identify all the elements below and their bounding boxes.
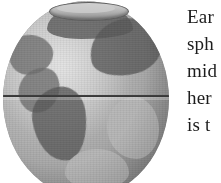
- body-text-line: her: [187, 88, 221, 107]
- body-text-line: mid: [187, 61, 221, 80]
- body-text-line: is t: [187, 115, 221, 134]
- body-text-line: sph: [187, 34, 221, 53]
- globe-illustration: [3, 1, 169, 183]
- globe-limb-shadow: [3, 1, 169, 183]
- globe-sphere: [3, 1, 169, 183]
- body-text-line: Ear: [187, 7, 221, 26]
- page-canvas: Ear sph mid her is t: [0, 0, 221, 183]
- body-text-column: Ear sph mid her is t: [187, 0, 221, 183]
- equator-highlight-band: [3, 97, 169, 100]
- polar-ellipse-inner: [57, 4, 115, 13]
